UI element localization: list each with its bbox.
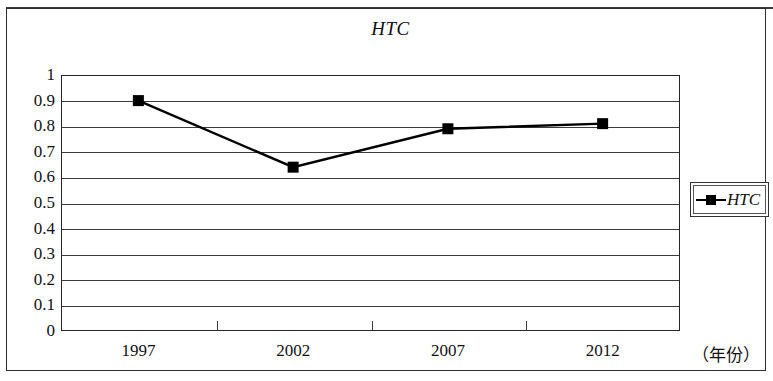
y-axis-tick-label: 0.8 [3, 117, 55, 134]
y-axis-tick-label: 0.5 [3, 194, 55, 211]
legend-square-icon [706, 195, 716, 205]
chart-screenshot: HTC 10.90.80.70.60.50.40.30.20.10 HTC （年… [0, 0, 773, 381]
x-axis-tick-label: 2002 [216, 341, 371, 361]
legend-inner: HTC [693, 185, 766, 214]
series-htc [133, 95, 608, 173]
x-axis-tick-label: 2007 [371, 341, 526, 361]
y-axis-tick-label: 0.7 [3, 143, 55, 160]
chart-title-text: HTC [371, 18, 409, 39]
legend[interactable]: HTC [690, 182, 769, 217]
y-axis-tick-label: 1 [3, 66, 55, 83]
legend-marker-icon [696, 193, 726, 207]
y-axis-tick-labels: 10.90.80.70.60.50.40.30.20.10 [0, 0, 55, 381]
y-axis-tick-label: 0.3 [3, 245, 55, 262]
y-axis-tick-label: 0.9 [3, 92, 55, 109]
x-axis-tick-label: 2012 [525, 341, 680, 361]
y-axis-tick-label: 0 [3, 322, 55, 339]
data-point-marker [597, 118, 608, 129]
data-point-marker [288, 162, 299, 173]
y-axis-tick-label: 0.1 [3, 296, 55, 313]
x-axis-tick-label: 1997 [61, 341, 216, 361]
data-point-marker [133, 95, 144, 106]
series-layer [61, 75, 680, 331]
y-axis-tick-label: 0.4 [3, 220, 55, 237]
x-axis-title: （年份） [692, 341, 760, 366]
y-axis-tick-label: 0.6 [3, 168, 55, 185]
legend-label: HTC [726, 191, 760, 208]
y-axis-tick-label: 0.2 [3, 271, 55, 288]
chart-title: HTC [0, 18, 773, 40]
data-point-marker [442, 123, 453, 134]
